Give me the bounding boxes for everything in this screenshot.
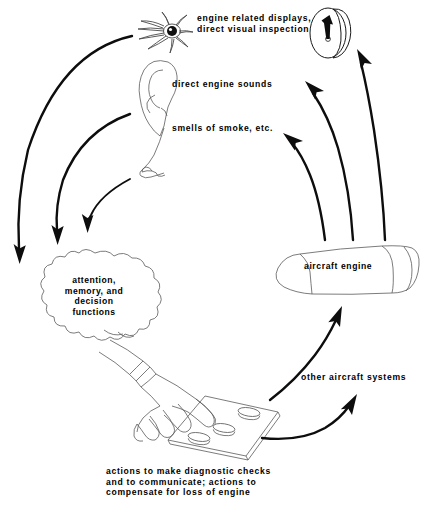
engine-display-gauge: [310, 8, 351, 58]
label-actions-caption: actions to make diagnostic checks and to…: [106, 466, 271, 498]
panel-button-2[interactable]: [212, 422, 235, 436]
hand-on-control-panel: [99, 340, 216, 441]
nose-icon: [140, 128, 165, 178]
label-other-aircraft-systems: other aircraft systems: [301, 372, 406, 383]
panel-button-3[interactable]: [187, 431, 210, 445]
arrow-nose-to-brain: [82, 179, 130, 233]
panel-button-1[interactable]: [237, 406, 260, 420]
label-cognition-functions: attention, memory, and decision function…: [47, 275, 141, 318]
label-aircraft-engine: aircraft engine: [304, 261, 372, 272]
label-engine-displays: engine related displays, direct visual i…: [197, 13, 311, 34]
arrow-engine-to-ear: [305, 81, 353, 240]
arrow-actions-to-other-systems: [262, 394, 357, 439]
arrow-eye-to-brain: [14, 36, 132, 264]
arrow-engine-to-display: [357, 49, 385, 240]
control-panel[interactable]: [168, 396, 280, 460]
arrow-ear-to-brain: [51, 114, 130, 245]
label-engine-sounds: direct engine sounds: [172, 79, 272, 90]
diagram-canvas: engine related displays, direct visual i…: [0, 0, 426, 509]
diagram-vector-layer: [0, 0, 426, 509]
arrow-engine-to-nose: [283, 133, 325, 240]
arrow-actions-to-engine: [270, 306, 342, 400]
eye-icon: [138, 12, 193, 53]
label-smells-of-smoke: smells of smoke, etc.: [172, 123, 273, 134]
